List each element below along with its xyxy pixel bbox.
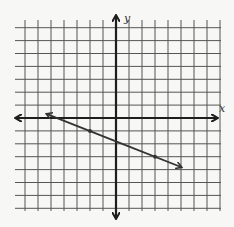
x-axis-label: x (219, 102, 226, 115)
line-series (47, 114, 181, 167)
plotted-line-right (114, 141, 181, 167)
y-axis-label: y (123, 12, 131, 25)
grid-lines (15, 20, 221, 211)
axes (16, 16, 217, 218)
coordinate-plane: x y (0, 0, 234, 227)
data-point (88, 129, 92, 133)
data-point (153, 155, 157, 159)
